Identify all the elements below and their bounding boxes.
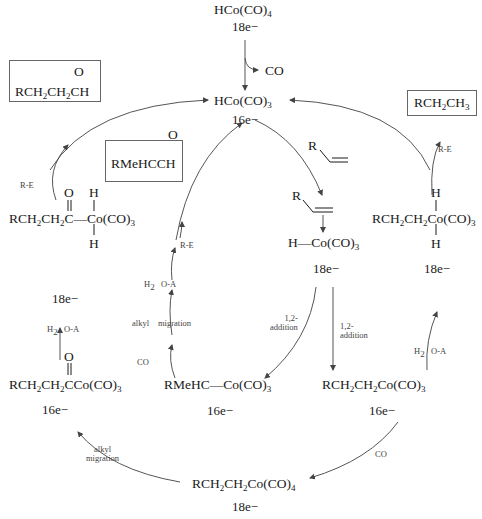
linear-alkyl-formula: RCH2CH2Co(CO)3 [322, 378, 426, 392]
oa-right-label: O-A [431, 347, 446, 356]
carbonyl-oxygen: O [74, 65, 84, 79]
precatalyst-electrons: 18e− [232, 20, 258, 33]
migration-mid-label: migration [158, 319, 191, 328]
product-box-alkane: RCH2CH3 [407, 90, 477, 116]
re-right-label: R-E [438, 145, 452, 154]
acyl-oxygen: O [64, 186, 74, 200]
alkyl-tetracarbonyl-electrons: 18e− [232, 500, 258, 513]
alkene-complex-formula: H—Co(CO)3 [288, 236, 359, 250]
re-left-label: R-E [20, 181, 34, 190]
catalyst-formula: HCo(CO)3 [214, 94, 272, 108]
alkyl-tetracarbonyl-formula: RCH2CH2Co(CO)4 [192, 477, 296, 491]
alkyl-mid-label: alkyl [132, 319, 149, 328]
co-mid-label: CO [137, 358, 149, 367]
acyl-formula: RCH2CH2CCo(CO)3 [9, 378, 122, 392]
catalyst-electrons: 16e− [232, 113, 258, 126]
acyl-dihydride-electrons: 18e− [52, 292, 78, 305]
coordinated-alkene-r-group: R [292, 189, 301, 203]
acyl-oxygen: O [64, 350, 74, 364]
precatalyst-formula: HCo(CO)4 [214, 3, 272, 17]
product-box-linear-aldehyde: O RCH2CH2CH [9, 60, 101, 102]
hydride-h: H [431, 237, 441, 251]
h2-right-label: H2 [414, 347, 425, 356]
hydride-h: H [89, 186, 99, 200]
oa-mid-label: O-A [161, 280, 176, 289]
oa-left-label: O-A [64, 325, 79, 334]
h2-left-label: H2 [47, 325, 58, 334]
acyl-dihydride-formula: RCH2CH2C—Co(CO)3 [9, 212, 135, 226]
alkene-complex-electrons: 18e− [313, 262, 339, 275]
linear-alkyl-electrons: 16e− [369, 404, 395, 417]
carbonyl-oxygen: O [168, 128, 178, 142]
branched-alkyl-electrons: 16e− [207, 404, 233, 417]
alkyl-migration-bottom-label: alkylmigration [86, 445, 119, 463]
re-mid-label: R-E [180, 241, 194, 250]
catalytic-cycle-diagram: HCo(CO)4 18e− CO HCo(CO)3 16e− O RCH2CH2… [0, 0, 482, 519]
branched-alkyl-formula: RMeHC—Co(CO)3 [164, 378, 271, 392]
linear-aldehyde-formula: RCH2CH2CH [15, 85, 89, 99]
acyl-electrons: 16e− [42, 403, 68, 416]
alkane-formula: RCH2CH3 [414, 96, 470, 110]
branched-aldehyde-formula: RMeHCCH [111, 157, 176, 171]
co-loss-label: CO [265, 64, 284, 78]
co-right-label: CO [375, 450, 387, 459]
alkyl-dihydride-electrons: 18e− [424, 262, 450, 275]
h2-mid-label: H2 [144, 280, 155, 289]
hydride-h: H [89, 237, 99, 251]
product-box-branched-aldehyde: O RMeHCCH [105, 140, 183, 182]
alkyl-dihydride-formula: RCH2CH2Co(CO)3 [372, 212, 476, 226]
addition-12-left-label: 1,2-addition [270, 314, 298, 332]
addition-12-right-label: 1,2-addition [340, 322, 368, 340]
hydride-h: H [431, 186, 441, 200]
alkene-r-group: R [308, 139, 317, 153]
